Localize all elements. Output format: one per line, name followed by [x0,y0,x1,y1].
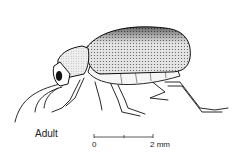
figure-caption: Adult [35,128,58,139]
beetle-figure: Adult 0 2 mm [0,0,244,160]
scale-bar [94,134,153,138]
scale-start-label: 0 [92,140,96,149]
scale-end-label: 2 mm [150,140,170,149]
